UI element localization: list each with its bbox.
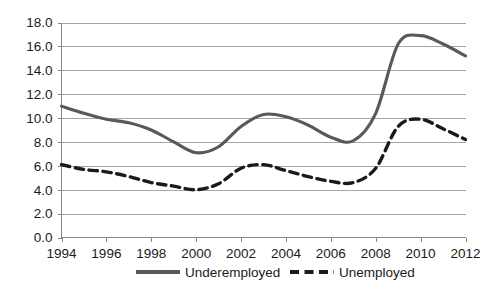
x-axis-tick-label: 2002 — [226, 246, 256, 261]
y-axis-tick-label: 14.0 — [26, 63, 52, 78]
y-axis-tick-labels: 0.02.04.06.08.010.012.014.016.018.0 — [26, 15, 52, 245]
y-axis-tick-label: 10.0 — [26, 111, 52, 126]
legend-label-unemployed: Unemployed — [339, 265, 415, 280]
y-axis-tick-label: 6.0 — [34, 159, 53, 174]
series-line-underemployed — [62, 35, 466, 153]
y-axis-tick-label: 8.0 — [34, 135, 53, 150]
x-axis-tick-label: 2006 — [316, 246, 346, 261]
y-axis-tick-label: 18.0 — [26, 15, 52, 30]
y-axis-tick-label: 2.0 — [34, 206, 53, 221]
line-chart: 0.02.04.06.08.010.012.014.016.018.0 1994… — [0, 0, 500, 293]
y-axis-tick-label: 0.0 — [34, 230, 53, 245]
x-axis-tick-label: 2004 — [271, 246, 302, 261]
y-axis-tick-label: 12.0 — [26, 87, 52, 102]
axes-group — [62, 23, 466, 238]
chart-container: 0.02.04.06.08.010.012.014.016.018.0 1994… — [0, 0, 500, 293]
x-axis-tick-label: 1996 — [91, 246, 121, 261]
y-axis-tick-label: 16.0 — [26, 39, 52, 54]
x-axis-tick-label: 2012 — [450, 246, 480, 261]
tick-marks-group — [58, 24, 467, 242]
x-axis-tick-label: 2008 — [361, 246, 391, 261]
series-line-unemployed — [62, 119, 466, 190]
chart-legend: UnderemployedUnemployed — [136, 265, 415, 280]
x-axis-tick-label: 1994 — [46, 246, 77, 261]
legend-label-underemployed: Underemployed — [185, 265, 280, 280]
y-axis-tick-label: 4.0 — [34, 183, 53, 198]
x-axis-tick-label: 2010 — [406, 246, 436, 261]
x-axis-tick-label: 2000 — [181, 246, 211, 261]
x-axis-tick-label: 1998 — [136, 246, 166, 261]
x-axis-tick-labels: 1994199619982000200220042006200820102012 — [46, 246, 480, 261]
gridlines-group — [62, 24, 466, 215]
